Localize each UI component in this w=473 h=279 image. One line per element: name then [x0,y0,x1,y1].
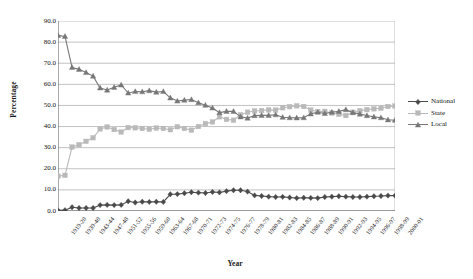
legend-label: Local [431,119,447,131]
legend-item-local[interactable]: Local [408,119,455,131]
legend-marker-icon [408,109,428,118]
legend-label: State [431,108,445,120]
chart-legend: NationalStateLocal [408,96,455,131]
legend-marker-icon [408,120,428,129]
x-axis-title: Year [190,259,280,268]
legend-marker-icon [408,97,428,106]
x-axis-tick-labels: 1919-201939-401943-441947-481951-521955-… [0,0,473,279]
legend-item-state[interactable]: State [408,108,455,120]
chart-container: Percentage 0.010.020.030.040.050.060.070… [0,0,473,279]
legend-item-national[interactable]: National [408,96,455,108]
legend-label: National [431,96,455,108]
